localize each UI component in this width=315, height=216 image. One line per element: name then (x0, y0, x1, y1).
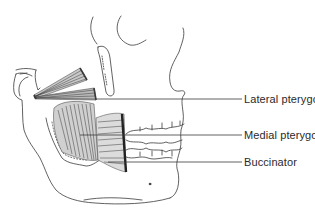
lower-teeth (126, 140, 182, 144)
upper-teeth (126, 124, 184, 134)
medial-pterygoid-muscle (53, 101, 98, 160)
label-lateral-pterygoid: Lateral pterygoid (244, 93, 315, 105)
zygomatic-bone (98, 46, 114, 96)
orbit-outline (91, 17, 97, 44)
face-profile (170, 28, 185, 198)
mental-foramen (149, 183, 151, 185)
lateral-pterygoid-muscle (34, 68, 96, 100)
coronoid-outline (35, 70, 40, 90)
label-medial-pterygoid: Medial pterygoid (244, 129, 315, 141)
label-buccinator: Buccinator (244, 156, 297, 168)
cranium-outline (117, 16, 146, 45)
mandible-inner-line (84, 198, 142, 200)
buccinator-muscle (96, 113, 126, 172)
jaw-muscles-diagram (0, 0, 315, 216)
condyle-outline (19, 77, 28, 96)
